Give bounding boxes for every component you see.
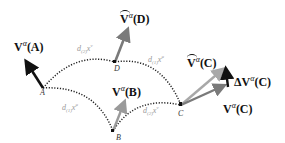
point-marker-B bbox=[111, 129, 114, 132]
parallel-transport-diagram: A B C D Vα(A) Vα(D) Vα(B) Vα(C) ΔVα(C) V… bbox=[0, 0, 285, 143]
label-V-B: Vα(B) bbox=[112, 85, 141, 98]
label-V-D-base: V bbox=[120, 13, 129, 25]
label-V-B-arg: (B) bbox=[125, 85, 141, 99]
label-V-A: Vα(A) bbox=[14, 40, 44, 53]
path-label-B-C-sup: ν bbox=[156, 105, 158, 110]
point-label-B: B bbox=[116, 134, 121, 142]
label-V-C-base: V bbox=[223, 102, 232, 116]
label-V-A-base: V bbox=[14, 40, 23, 54]
path-A-B bbox=[43, 88, 113, 131]
path-label-A-B-sup: μ bbox=[75, 102, 78, 107]
vector-V-A bbox=[27, 63, 43, 88]
point-label-C: C bbox=[178, 110, 183, 118]
path-label-A-D-sup: ν bbox=[90, 43, 92, 48]
label-V-D-arg: (D) bbox=[133, 12, 150, 26]
label-V-C-arg: (C) bbox=[236, 102, 253, 116]
path-label-B-C: d(2)xν bbox=[143, 105, 159, 116]
label-V-C-tilde-arg: (C) bbox=[200, 56, 217, 70]
point-label-A: A bbox=[40, 89, 45, 97]
label-V-C-tilde-base: V bbox=[187, 57, 196, 69]
vector-V-B bbox=[113, 103, 124, 131]
label-delta-V-C-base: ΔV bbox=[234, 75, 250, 89]
path-label-D-C-sup: μ bbox=[161, 54, 164, 59]
path-label-D-C: d(1)xμ bbox=[148, 54, 164, 65]
path-A-D bbox=[43, 59, 115, 88]
point-label-D: D bbox=[114, 65, 120, 73]
label-V-B-base: V bbox=[112, 85, 121, 99]
label-V-C-tilde: Vα(C) bbox=[187, 56, 217, 69]
vector-V-D-tilde bbox=[115, 31, 127, 62]
path-label-A-B: d(1)xμ bbox=[62, 102, 78, 113]
label-V-D-tilde: Vα(D) bbox=[120, 12, 150, 25]
label-delta-V-C: ΔVα(C) bbox=[234, 75, 271, 88]
vector-V-C-tilde bbox=[181, 70, 222, 105]
vector-delta-V-C bbox=[226, 70, 228, 87]
point-marker-D bbox=[113, 60, 116, 63]
vector-V-C bbox=[181, 86, 223, 105]
label-V-C: Vα(C) bbox=[223, 102, 253, 115]
path-label-A-D: d(2)xν bbox=[77, 43, 93, 54]
point-marker-C bbox=[179, 102, 182, 106]
label-V-A-arg: (A) bbox=[27, 40, 44, 54]
label-delta-V-C-arg: (C) bbox=[254, 75, 271, 89]
